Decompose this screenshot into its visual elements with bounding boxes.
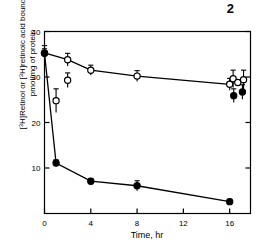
data-point-filled: [88, 178, 94, 184]
y-tick-label: 40: [32, 28, 41, 37]
data-point-open: [134, 73, 140, 79]
data-point-open: [65, 77, 71, 83]
figure-panel: 2 [3H]Retinol or [3H]retinoic acid bound…: [0, 0, 267, 252]
x-tick-label: 4: [89, 219, 94, 228]
x-tick-label: 8: [135, 219, 140, 228]
axis-ticks: [45, 32, 251, 214]
x-tick-label: 0: [42, 219, 47, 228]
x-tick-label: 12: [179, 219, 188, 228]
y-tick-label: 20: [32, 119, 41, 128]
data-point-open: [53, 98, 59, 104]
chart-plot-area: 048121610203040: [0, 0, 267, 252]
data-point-open: [240, 77, 246, 83]
data-series: [41, 46, 246, 205]
plot-frame: [45, 32, 251, 214]
data-point-filled: [41, 50, 47, 56]
y-tick-label: 10: [32, 164, 41, 173]
data-point-filled: [231, 93, 237, 99]
data-point-open: [65, 57, 71, 63]
y-tick-label: 30: [32, 73, 41, 82]
x-tick-label: 16: [225, 219, 234, 228]
axes: [45, 32, 251, 214]
data-point-filled: [239, 89, 245, 95]
data-point-filled: [134, 183, 140, 189]
data-point-open: [88, 67, 94, 73]
data-point-filled: [227, 199, 233, 205]
data-point-filled: [53, 160, 59, 166]
